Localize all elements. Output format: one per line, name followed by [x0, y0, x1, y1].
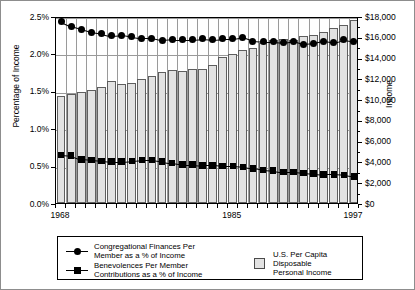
bar [198, 69, 207, 203]
legend-item-congregational-finances: Congregational Finances Per Member as a … [66, 242, 195, 260]
x-axis-tick [116, 204, 117, 208]
bar [208, 65, 217, 203]
bar [238, 50, 247, 203]
x-axis-tick [328, 204, 329, 208]
y-axis-left-tick-label: 1.5% [15, 87, 49, 96]
x-axis-tick [55, 204, 56, 208]
legend-item-benevolences: Benevolences Per Member Contributions as… [66, 261, 202, 279]
bar [259, 43, 268, 204]
bar [97, 87, 106, 203]
y-axis-right-minor-tick [358, 194, 360, 195]
y-axis-right-tick [358, 59, 362, 60]
legend-label-congregational-finances: Congregational Finances Per Member as a … [94, 242, 195, 260]
y-axis-right-minor-tick [358, 90, 360, 91]
x-axis-tick [156, 204, 157, 208]
legend-item-disposable-income: U.S. Per Capita Disposable Personal Inco… [254, 250, 364, 278]
x-axis-tick [318, 204, 319, 208]
x-axis-tick [75, 204, 76, 208]
bar [329, 28, 338, 203]
x-axis-tick [257, 204, 258, 208]
x-axis-tick-label: 1968 [42, 211, 78, 220]
x-axis-tick [207, 204, 208, 208]
x-axis-tick-label: 1985 [214, 211, 250, 220]
y-axis-right-tick-label: $6,000 [365, 137, 391, 146]
y-axis-right-minor-tick [358, 27, 360, 28]
bar [178, 71, 187, 203]
bar [67, 94, 76, 203]
y-axis-left-tick-label: 0.5% [15, 162, 49, 171]
y-axis-right-tick-label: $10,000 [365, 96, 396, 105]
bar [228, 54, 237, 203]
y-axis-right-tick-label: $0 [365, 200, 374, 209]
y-axis-right-tick-label: $2,000 [365, 179, 391, 188]
bar [269, 40, 278, 203]
y-axis-left-tick-label: 2.5% [15, 13, 49, 22]
bar [289, 40, 298, 203]
bar [339, 25, 348, 203]
y-axis-right-tick [358, 38, 362, 39]
y-axis-right-tick-label: $18,000 [365, 13, 396, 22]
x-axis-tick [217, 204, 218, 208]
bar [127, 83, 136, 204]
x-axis-tick [348, 204, 349, 208]
x-axis-tick-label: 1997 [335, 211, 371, 220]
y-axis-right-tick-label: $4,000 [365, 158, 391, 167]
bar [148, 76, 157, 203]
bar [77, 92, 86, 203]
bar [168, 70, 177, 203]
y-axis-right-minor-tick [358, 131, 360, 132]
x-axis-tick [287, 204, 288, 208]
x-axis-tick [338, 204, 339, 208]
chart-legend: Congregational Finances Per Member as a … [57, 236, 363, 280]
bar [309, 35, 318, 203]
x-axis-tick [267, 204, 268, 208]
x-axis-tick [196, 204, 197, 208]
bar [279, 39, 288, 203]
y-axis-left-tick-label: 1.0% [15, 125, 49, 134]
x-axis-tick [227, 204, 228, 208]
square-line-marker-icon [66, 265, 88, 275]
bar [87, 90, 96, 203]
x-axis-tick [95, 204, 96, 208]
x-axis-tick [308, 204, 309, 208]
x-axis-tick [186, 204, 187, 208]
y-axis-right-tick [358, 79, 362, 80]
circle-line-marker-icon [66, 246, 88, 256]
y-axis-left-tick-label: 0.0% [15, 200, 49, 209]
y-axis-right-tick [358, 162, 362, 163]
bar [57, 96, 66, 203]
bar-swatch-icon [254, 258, 265, 269]
bar [218, 57, 227, 203]
y-axis-right-tick [358, 100, 362, 101]
y-axis-right-minor-tick [358, 69, 360, 70]
x-axis-tick [247, 204, 248, 208]
bar [158, 72, 167, 203]
bar [249, 48, 258, 203]
x-axis-tick [126, 204, 127, 208]
x-axis-tick [166, 204, 167, 208]
bar [299, 36, 308, 203]
chart-page: Percentage of Income Income 0.0%0.5%1.0%… [0, 0, 415, 290]
x-axis-tick [136, 204, 137, 208]
x-axis-tick [297, 204, 298, 208]
legend-label-disposable-income: U.S. Per Capita Disposable Personal Inco… [273, 250, 364, 278]
bar [107, 81, 116, 203]
y-axis-right-minor-tick [358, 152, 360, 153]
x-axis-tick [106, 204, 107, 208]
y-axis-right-minor-tick [358, 48, 360, 49]
y-axis-right-tick [358, 142, 362, 143]
bar [188, 69, 197, 203]
y-axis-left-tick-label: 2.0% [15, 50, 49, 59]
bar [319, 32, 328, 203]
y-axis-right-tick [358, 121, 362, 122]
y-axis-right-tick-label: $12,000 [365, 75, 396, 84]
y-axis-right-tick [358, 183, 362, 184]
x-axis-tick [176, 204, 177, 208]
y-axis-right-tick-label: $8,000 [365, 116, 391, 125]
y-axis-right-minor-tick [358, 173, 360, 174]
bar-series [56, 18, 357, 203]
bar [137, 79, 146, 203]
plot-area [55, 17, 358, 204]
y-axis-right-tick-label: $14,000 [365, 54, 396, 63]
y-axis-right-tick-label: $16,000 [365, 33, 396, 42]
